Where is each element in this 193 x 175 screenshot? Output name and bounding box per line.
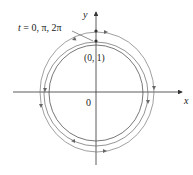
x-axis-label: x <box>183 95 189 106</box>
origin-label: 0 <box>86 97 91 108</box>
y-axis-label: y <box>82 9 88 20</box>
point-outer-start <box>94 29 97 32</box>
parametric-curve-diagram: y x 0 (0, 1) t = 0, π, 2π <box>0 0 193 175</box>
point-0-1 <box>94 39 97 42</box>
arrow-icon <box>104 30 108 34</box>
arrow-icon <box>39 104 43 108</box>
annotation-label: t = 0, π, 2π <box>18 22 62 33</box>
arrow-icon <box>152 86 156 90</box>
point-label: (0, 1) <box>84 53 105 64</box>
annotation-values: = 0, π, 2π <box>21 22 62 33</box>
arrow-icon <box>103 149 107 153</box>
arrow-icon <box>43 88 47 92</box>
arrow-icon <box>146 100 150 104</box>
